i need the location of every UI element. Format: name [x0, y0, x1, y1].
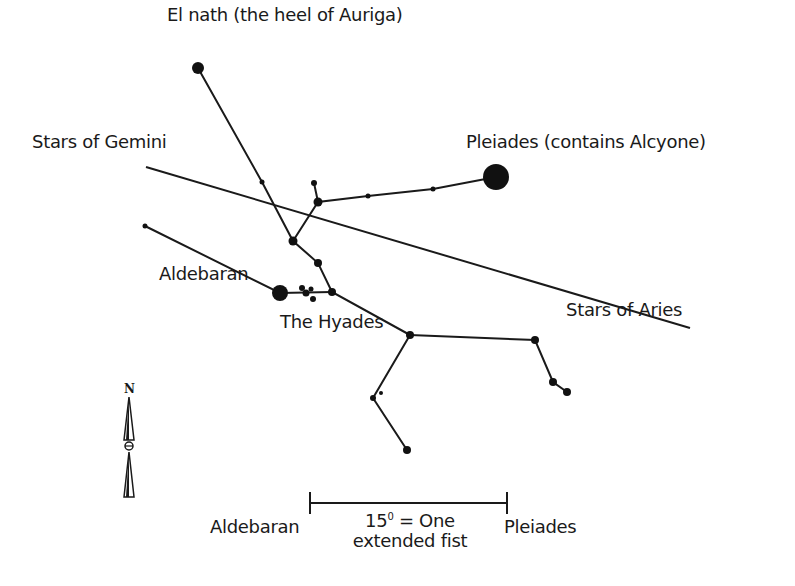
star: [431, 187, 436, 192]
star: [260, 180, 265, 185]
star: [309, 287, 314, 292]
star: [366, 194, 371, 199]
star: [563, 388, 571, 396]
label-aldebaran: Aldebaran: [159, 263, 248, 284]
stars: [143, 62, 572, 454]
scale-degree-symbol: 0: [387, 511, 393, 522]
star: [314, 259, 322, 267]
scale-degrees-value: 15: [365, 510, 387, 531]
label-pleiades: Pleiades (contains Alcyone): [466, 131, 706, 152]
scale-measure-label: 150 = One extended fist: [330, 507, 490, 551]
star: [549, 378, 557, 386]
star: [403, 446, 411, 454]
scale-fist-text: extended fist: [330, 531, 490, 551]
star-chart: [0, 0, 795, 586]
star: [531, 336, 539, 344]
star: [328, 288, 336, 296]
star-aldebaran: [272, 285, 288, 301]
north-arrow-icon: [124, 397, 134, 497]
label-el-nath: El nath (the heel of Auriga): [167, 4, 403, 25]
compass-north-label: N: [124, 382, 135, 396]
lower-branch: [373, 335, 410, 450]
constellation-lines: [145, 68, 690, 450]
star: [143, 224, 148, 229]
star: [310, 296, 316, 302]
star: [289, 237, 298, 246]
pleiades-line: [293, 177, 496, 241]
scale-equals-text: = One: [399, 510, 455, 531]
label-the-hyades: The Hyades: [280, 311, 383, 332]
label-stars-of-aries: Stars of Aries: [566, 299, 682, 320]
star-el-nath: [192, 62, 204, 74]
star: [370, 395, 376, 401]
right-branch: [410, 335, 567, 392]
scale-left-label: Aldebaran: [210, 516, 299, 537]
star: [314, 198, 323, 207]
star: [379, 391, 383, 395]
star-pleiades: [483, 164, 509, 190]
star: [311, 180, 317, 186]
label-stars-of-gemini: Stars of Gemini: [32, 131, 167, 152]
star: [303, 290, 310, 297]
scale-right-label: Pleiades: [504, 516, 576, 537]
star: [406, 331, 414, 339]
